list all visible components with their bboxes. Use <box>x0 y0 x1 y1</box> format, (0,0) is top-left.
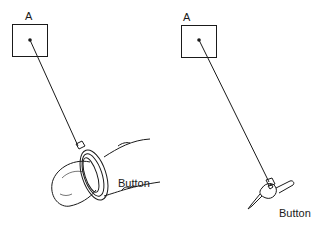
finger-icon <box>52 139 160 206</box>
diagram-drawing <box>0 0 330 228</box>
stylus-icon <box>248 178 294 209</box>
pointer-line <box>30 40 78 146</box>
target-dot <box>197 38 201 42</box>
pointer-line <box>199 40 269 182</box>
target-dot <box>28 38 32 42</box>
